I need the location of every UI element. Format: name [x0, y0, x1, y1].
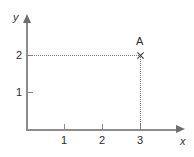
- x-axis-tick-label-2: 2: [95, 135, 109, 146]
- y-axis-label: y: [13, 12, 19, 23]
- x-axis-arrow-icon: [176, 125, 185, 133]
- point-marker-icon: [136, 51, 145, 60]
- x-axis-label: x: [180, 136, 186, 147]
- vertical-dotted-guide-line: [140, 55, 141, 130]
- y-axis-tick-label-1: 1: [10, 87, 22, 98]
- x-axis-tick-1: [64, 124, 65, 131]
- y-axis-tick-label-2: 2: [10, 50, 22, 61]
- x-axis-tick-2: [102, 124, 103, 131]
- coordinate-plane-figure: y x 2 1 1 2 3 A: [0, 0, 194, 157]
- horizontal-dotted-guide-line: [27, 55, 141, 56]
- x-axis-tick-label-3: 3: [133, 135, 147, 146]
- y-axis-arrow-icon: [23, 14, 31, 23]
- y-axis-line: [26, 22, 28, 131]
- y-axis-tick-1: [26, 92, 33, 93]
- point-label-a: A: [136, 36, 143, 47]
- x-axis-tick-label-1: 1: [57, 135, 71, 146]
